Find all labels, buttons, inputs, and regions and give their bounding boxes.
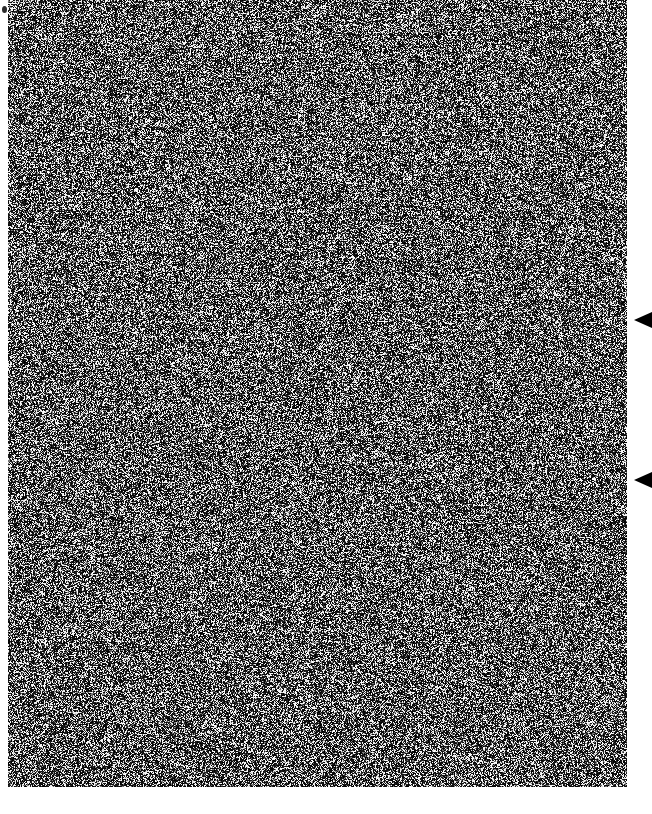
- edge-marker-triangle-1[interactable]: [634, 312, 652, 328]
- speckle-noise-region: [8, 0, 627, 787]
- corner-speck: [2, 6, 7, 13]
- page-root: [0, 0, 652, 814]
- edge-marker-triangle-2[interactable]: [634, 472, 652, 488]
